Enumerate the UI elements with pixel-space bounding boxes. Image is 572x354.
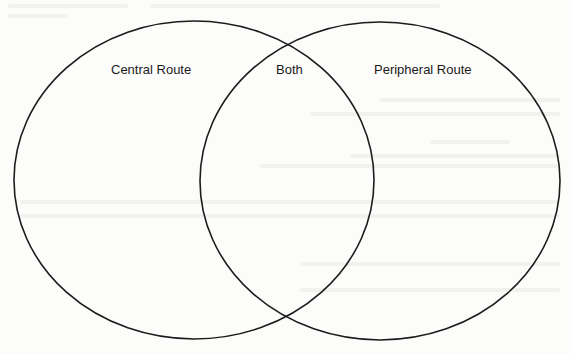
peripheral-route-label: Peripheral Route bbox=[374, 63, 472, 76]
central-route-label: Central Route bbox=[111, 63, 191, 76]
both-label: Both bbox=[276, 63, 303, 76]
central-route-circle bbox=[14, 21, 374, 339]
venn-diagram-page: Central Route Both Peripheral Route bbox=[0, 0, 572, 354]
venn-diagram bbox=[0, 0, 572, 354]
